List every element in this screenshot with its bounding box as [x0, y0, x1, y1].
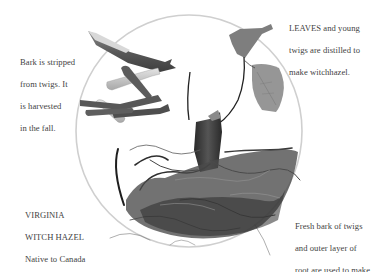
fresh-bark-caption-line: root are used to make	[295, 265, 384, 272]
leaves-icon	[188, 24, 284, 124]
bark-caption: Bark is stripped from twigs. It is harve…	[20, 46, 100, 145]
leaves-caption-line: LEAVES and young	[289, 23, 381, 34]
species-caption-line: VIRGINIA	[25, 210, 120, 221]
species-caption-line: WITCH HAZEL	[25, 232, 120, 243]
bark-caption-line: is harvested	[20, 101, 100, 112]
leaves-caption: LEAVES and young twigs are distilled to …	[289, 12, 381, 89]
bark-caption-line: from twigs. It	[20, 79, 100, 90]
leaves-caption-line: twigs are distilled to	[289, 45, 381, 56]
species-caption-line: Native to Canada	[25, 254, 120, 265]
bark-caption-line: Bark is stripped	[20, 57, 100, 68]
bark-caption-line: in the fall.	[20, 123, 100, 134]
root-mass-icon	[126, 149, 298, 238]
fresh-bark-caption: Fresh bark of twigs and outer layer of r…	[295, 210, 384, 272]
fresh-bark-caption-line: and outer layer of	[295, 243, 384, 254]
leaves-caption-line: make witchhazel.	[289, 67, 381, 78]
fresh-bark-caption-line: Fresh bark of twigs	[295, 221, 384, 232]
species-caption: VIRGINIA WITCH HAZEL Native to Canada an…	[25, 199, 120, 272]
